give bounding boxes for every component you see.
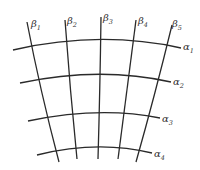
beta-curve-3 bbox=[98, 17, 101, 159]
beta-label-5: β5 bbox=[171, 18, 182, 32]
alpha-curve-2 bbox=[20, 74, 171, 83]
alpha-curve-4 bbox=[37, 147, 152, 155]
grid-svg: α1α2α3α4β1β2β3β4β5 bbox=[0, 0, 200, 170]
beta-label-2: β2 bbox=[66, 15, 77, 29]
alpha-label-1: α1 bbox=[183, 41, 194, 55]
alpha-curve-1 bbox=[13, 39, 181, 50]
alpha-label-4: α4 bbox=[154, 148, 165, 162]
alpha-label-3: α3 bbox=[162, 113, 173, 127]
beta-curve-5 bbox=[136, 25, 172, 162]
alpha-label-2: α2 bbox=[173, 76, 184, 90]
beta-label-4: β4 bbox=[137, 15, 148, 29]
beta-label-3: β3 bbox=[102, 12, 113, 26]
curvilinear-grid-diagram: α1α2α3α4β1β2β3β4β5 bbox=[0, 0, 200, 170]
beta-label-1: β1 bbox=[30, 18, 41, 32]
